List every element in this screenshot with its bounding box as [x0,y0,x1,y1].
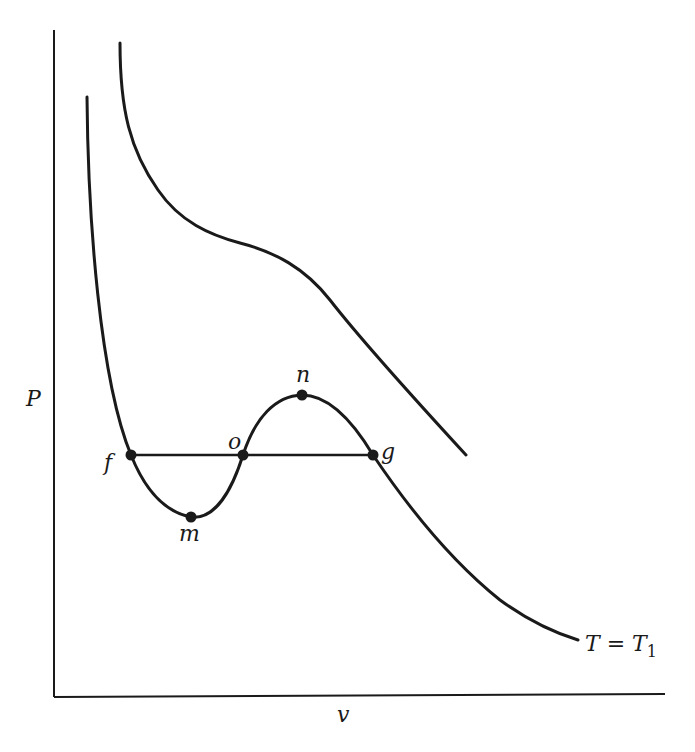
lower-isotherm-curve [87,97,578,640]
point-n-label: n [296,362,310,387]
y-axis-label: P [25,386,42,411]
isotherm-label-main: T = T [585,631,649,656]
point-f-label: f [102,450,116,475]
point-f-marker [126,450,137,461]
upper-isotherm-curve [120,43,466,455]
isotherm-label: T = T1 [585,631,657,661]
point-g-marker [368,450,379,461]
x-axis [54,694,665,697]
pv-diagram: f m o n g P v T = T1 [0,0,695,752]
point-o-label: o [228,429,241,454]
x-axis-label: v [337,702,350,727]
point-n-marker [297,390,308,401]
point-g-label: g [381,439,395,464]
point-m-label: m [179,521,200,546]
isotherm-label-subscript: 1 [647,642,657,661]
